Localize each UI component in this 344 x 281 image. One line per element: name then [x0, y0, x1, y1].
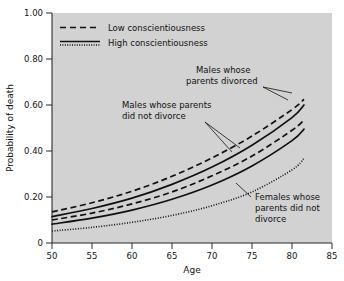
annotation-females-line1: Females whose	[255, 192, 320, 202]
x-axis-tick-labels: 5055606570758085	[47, 251, 338, 261]
x-tick-label-3: 65	[167, 251, 178, 261]
x-tick-label-2: 60	[127, 251, 138, 261]
probability-of-death-line-chart: 00.200.400.600.801.00 5055606570758085 L…	[0, 0, 344, 281]
y-tick-label-3: 0.60	[24, 100, 43, 110]
y-tick-label-4: 0.80	[24, 54, 43, 64]
y-axis-title: Probability of death	[5, 84, 15, 172]
legend-label-high-conscientiousness: High conscientiousness	[108, 38, 208, 48]
annotation-males-divorced-line1: Males whose	[196, 65, 250, 75]
x-tick-label-0: 50	[47, 251, 58, 261]
x-tick-label-4: 70	[207, 251, 218, 261]
x-tick-label-5: 75	[247, 251, 258, 261]
annotation-males-not-divorced-line1: Males whose parents	[122, 100, 212, 110]
y-axis-tick-labels: 00.200.400.600.801.00	[24, 8, 43, 248]
x-tick-label-7: 85	[327, 251, 338, 261]
x-tick-label-6: 80	[287, 251, 298, 261]
y-tick-label-2: 0.40	[24, 146, 43, 156]
x-axis-ticks	[52, 243, 332, 249]
y-axis-ticks	[46, 13, 52, 243]
figure: 00.200.400.600.801.00 5055606570758085 L…	[0, 0, 344, 281]
y-tick-label-0: 0	[38, 238, 43, 248]
annotation-males-divorced-line2: parents divorced	[186, 76, 258, 86]
annotation-females-line3: divorce	[255, 214, 286, 224]
y-tick-label-1: 0.20	[24, 192, 43, 202]
x-tick-label-1: 55	[87, 251, 98, 261]
y-tick-label-5: 1.00	[24, 8, 43, 18]
annotation-males-not-divorced-line2: did not divorce	[122, 111, 186, 121]
annotation-females-line2: parents did not	[255, 203, 320, 213]
legend-label-low-conscientiousness: Low conscientiousness	[108, 23, 206, 33]
x-axis-title: Age	[183, 265, 201, 275]
